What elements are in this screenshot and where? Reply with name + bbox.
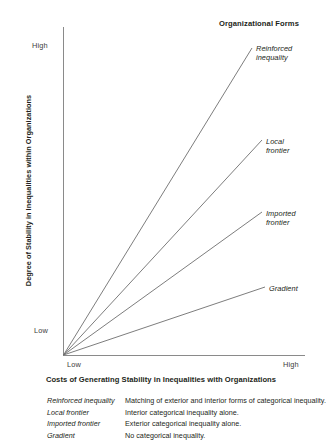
x-axis-tick-low: Low — [67, 360, 81, 369]
legend-description: Exterior categorical inequality alone. — [125, 419, 241, 428]
legend-row: Imported frontier Exterior categorical i… — [47, 419, 315, 431]
x-axis-title: Costs of Generating Stability in Inequal… — [0, 375, 322, 384]
legend-term: Imported frontier — [47, 419, 125, 428]
y-axis-title: Degree of Stability in Inequalities with… — [24, 66, 33, 316]
y-axis-tick-high: High — [32, 41, 48, 50]
legend-row: Reinforced inequality Matching of exteri… — [47, 396, 315, 408]
x-axis-tick-high: High — [283, 360, 299, 369]
legend-description: Matching of exterior and interior forms … — [125, 396, 326, 405]
legend-description: No categorical inequality. — [125, 431, 205, 440]
legend-description: Interior categorical inequality alone. — [125, 408, 239, 417]
legend: Reinforced inequality Matching of exteri… — [47, 396, 315, 442]
legend-row: Gradient No categorical inequality. — [47, 431, 315, 443]
y-axis-tick-low: Low — [34, 326, 48, 335]
legend-term: Gradient — [47, 431, 125, 440]
series-line-imported-frontier — [64, 212, 263, 355]
series-line-local-frontier — [64, 140, 263, 355]
series-line-reinforced-inequality — [64, 48, 253, 355]
legend-term: Reinforced inequality — [47, 396, 125, 405]
series-label-local-frontier: Local frontier — [266, 137, 289, 156]
legend-term: Local frontier — [47, 408, 125, 417]
legend-row: Local frontier Interior categorical ineq… — [47, 408, 315, 420]
series-label-gradient: Gradient — [269, 284, 298, 293]
series-label-reinforced-inequality: Reinforced inequality — [256, 44, 292, 63]
series-label-imported-frontier: Imported frontier — [266, 209, 296, 228]
series-line-gradient — [64, 287, 266, 355]
